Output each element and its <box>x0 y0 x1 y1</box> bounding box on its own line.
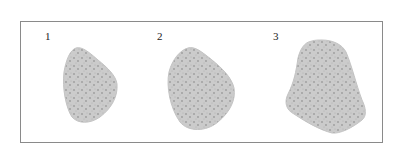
specimen-illustrations <box>0 0 401 165</box>
specimen-shape-2 <box>168 48 234 130</box>
specimen-shape-3 <box>286 40 365 133</box>
specimen-shape-1 <box>63 48 117 123</box>
